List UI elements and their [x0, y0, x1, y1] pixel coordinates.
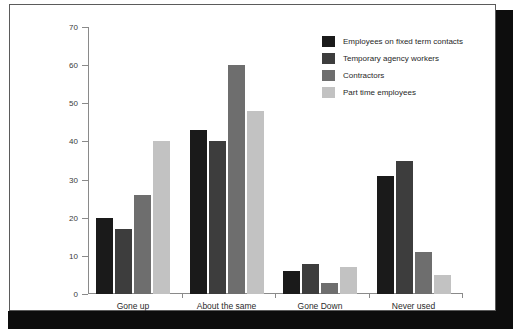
- y-axis-tick-label: 70: [69, 23, 78, 32]
- y-axis-tick-mark: [82, 294, 88, 295]
- y-axis-tick-label: 50: [69, 99, 78, 108]
- bar: [396, 161, 413, 295]
- y-axis-tick-label: 20: [69, 213, 78, 222]
- x-axis-category-label: Gone up: [117, 301, 150, 311]
- x-axis-category-label: Gone Down: [298, 301, 343, 311]
- x-axis-category-label: About the same: [197, 301, 257, 311]
- bar: [115, 229, 132, 294]
- y-axis-tick-label: 0: [74, 290, 78, 299]
- chart-legend: Employees on fixed term contactsTemporar…: [322, 33, 492, 101]
- bar: [153, 141, 170, 294]
- legend-item: Temporary agency workers: [322, 50, 492, 67]
- legend-swatch-icon: [322, 36, 335, 47]
- bar: [190, 130, 207, 294]
- bar: [434, 275, 451, 294]
- y-axis-tick-label: 10: [69, 251, 78, 260]
- bar: [228, 65, 245, 294]
- y-axis-tick-label: 40: [69, 137, 78, 146]
- bar: [283, 271, 300, 294]
- bar: [340, 267, 357, 294]
- legend-label: Part time employees: [343, 88, 416, 97]
- y-axis-tick-label: 30: [69, 175, 78, 184]
- figure-shadow-bottom: [8, 311, 513, 329]
- bar: [302, 264, 319, 295]
- legend-item: Employees on fixed term contacts: [322, 33, 492, 50]
- bar: [209, 141, 226, 294]
- x-axis-tick-mark: [182, 293, 183, 298]
- legend-label: Temporary agency workers: [343, 54, 439, 63]
- bar: [96, 218, 113, 294]
- legend-label: Contractors: [343, 71, 384, 80]
- legend-item: Contractors: [322, 67, 492, 84]
- x-axis-tick-mark: [369, 293, 370, 298]
- y-axis-tick-label: 60: [69, 61, 78, 70]
- x-axis-tick-mark: [462, 293, 463, 298]
- chart-figure: 010203040506070 Gone upAbout the sameGon…: [0, 0, 521, 329]
- bar: [415, 252, 432, 294]
- legend-swatch-icon: [322, 87, 335, 98]
- legend-item: Part time employees: [322, 84, 492, 101]
- legend-label: Employees on fixed term contacts: [343, 37, 463, 46]
- bar: [247, 111, 264, 294]
- bar: [321, 283, 338, 294]
- bar: [377, 176, 394, 294]
- figure-frame: 010203040506070 Gone upAbout the sameGon…: [9, 4, 496, 311]
- x-axis-tick-mark: [275, 293, 276, 298]
- legend-swatch-icon: [322, 53, 335, 64]
- figure-shadow-right: [496, 10, 513, 329]
- legend-swatch-icon: [322, 70, 335, 81]
- bar: [134, 195, 151, 294]
- x-axis-category-label: Never used: [392, 301, 435, 311]
